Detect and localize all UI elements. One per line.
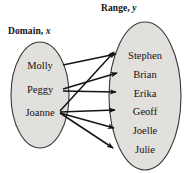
range-node-brian: Brian bbox=[133, 69, 156, 80]
range-node-joelle: Joelle bbox=[133, 125, 158, 136]
range-header-text: Range, bbox=[101, 3, 130, 13]
domain-node-peggy: Peggy bbox=[27, 84, 53, 95]
range-node-erika: Erika bbox=[134, 88, 157, 99]
domain-node-molly: Molly bbox=[27, 60, 53, 71]
arrow-joanne-to-joelle bbox=[60, 113, 114, 128]
arrow-joanne-to-julie bbox=[60, 113, 113, 148]
domain-header-text: Domain, bbox=[8, 26, 43, 36]
range-node-julie: Julie bbox=[135, 144, 155, 155]
range-node-stephen: Stephen bbox=[128, 50, 162, 61]
domain-node-joanne: Joanne bbox=[25, 107, 54, 118]
domain-header: Domain, x bbox=[8, 26, 51, 36]
domain-ellipse bbox=[11, 42, 69, 148]
range-header: Range, y bbox=[101, 3, 137, 13]
domain-header-variable: x bbox=[46, 26, 51, 36]
range-node-geoff: Geoff bbox=[133, 106, 157, 117]
mapping-diagram: Domain, x Range, y MollyPeggyJoanne Step… bbox=[0, 0, 184, 173]
arrow-peggy-to-erika bbox=[63, 91, 116, 92]
range-header-variable: y bbox=[132, 3, 136, 13]
